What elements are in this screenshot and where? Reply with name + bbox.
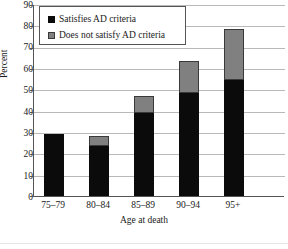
legend: Satisfies AD criteria Does not satisfy A… — [39, 6, 186, 45]
bar-75-79[interactable] — [44, 134, 64, 196]
y-tick-mark-60 — [30, 69, 34, 70]
y-tick-mark-80 — [30, 26, 34, 27]
y-tick-mark-20 — [30, 154, 34, 155]
y-tick-mark-40 — [30, 112, 34, 113]
gridline-30 — [34, 133, 285, 134]
gridline-60 — [34, 69, 285, 70]
bar-segment-satisfies — [179, 93, 199, 196]
y-tick-mark-0 — [30, 196, 34, 197]
bar-segment-satisfies — [89, 146, 109, 196]
bar-segment-satisfies — [134, 113, 154, 196]
bar-segment-satisfies — [44, 134, 64, 196]
x-tick-label-95-plus: 95+ — [203, 200, 263, 210]
legend-label-satisfies: Satisfies AD criteria — [59, 14, 136, 24]
bar-segment-not-satisfies — [179, 61, 199, 93]
gridline-70 — [34, 48, 285, 49]
gridline-50 — [34, 90, 285, 91]
bar-85-89[interactable] — [134, 96, 154, 196]
y-tick-mark-50 — [30, 90, 34, 91]
legend-swatch-black-icon — [48, 16, 55, 23]
bar-95-plus[interactable] — [224, 29, 244, 196]
chart-figure: Percent 90 80 70 60 50 40 30 20 10 0 — [0, 0, 288, 249]
bar-segment-satisfies — [224, 80, 244, 196]
y-tick-mark-90 — [30, 5, 34, 6]
gridline-40 — [34, 112, 285, 113]
y-axis-title: Percent — [0, 50, 9, 79]
gridline-20 — [34, 154, 285, 155]
x-axis-title: Age at death — [0, 215, 288, 225]
y-tick-mark-70 — [30, 48, 34, 49]
bar-segment-not-satisfies — [89, 136, 109, 146]
page-edge-rule — [0, 243, 288, 244]
legend-item-not-satisfies[interactable]: Does not satisfy AD criteria — [48, 27, 185, 43]
bar-segment-not-satisfies — [224, 29, 244, 80]
bar-90-94[interactable] — [179, 61, 199, 196]
bar-segment-not-satisfies — [134, 96, 154, 113]
y-tick-mark-10 — [30, 176, 34, 177]
legend-swatch-gray-icon — [48, 32, 55, 39]
legend-label-not-satisfies: Does not satisfy AD criteria — [59, 30, 165, 40]
gridline-10 — [34, 176, 285, 177]
bar-80-84[interactable] — [89, 136, 109, 196]
legend-item-satisfies[interactable]: Satisfies AD criteria — [48, 11, 185, 27]
y-tick-mark-30 — [30, 133, 34, 134]
